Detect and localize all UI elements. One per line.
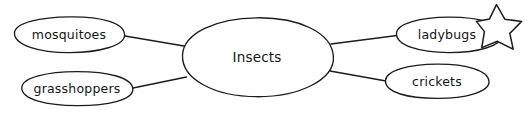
node-mosquitoes[interactable]: mosquitoes [14,17,124,53]
star-icon [476,5,521,50]
concept-map-svg: mosquitoes grasshoppers Insects ladybugs… [0,0,528,118]
crickets-label: crickets [412,74,462,89]
insects-label: Insects [232,49,281,65]
node-insects-center[interactable]: Insects [182,18,333,97]
connector-center-to-ladybugs [331,36,397,45]
node-crickets[interactable]: crickets [385,64,489,98]
connector-center-to-mosquitoes [125,36,187,47]
connector-center-to-crickets [330,71,386,81]
connector-center-to-grasshoppers [133,77,187,88]
grasshoppers-label: grasshoppers [34,81,121,96]
star-icon-outline [476,5,521,50]
ladybugs-label: ladybugs [418,27,476,42]
concept-map-canvas: mosquitoes grasshoppers Insects ladybugs… [0,0,528,118]
node-grasshoppers[interactable]: grasshoppers [22,72,133,106]
mosquitoes-label: mosquitoes [32,27,106,42]
